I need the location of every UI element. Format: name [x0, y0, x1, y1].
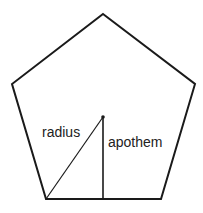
- apothem-label: apothem: [108, 134, 162, 150]
- radius-label: radius: [42, 124, 80, 140]
- center-point: [101, 115, 105, 119]
- diagram-svg: radius apothem: [0, 0, 203, 213]
- pentagon-diagram: radius apothem: [0, 0, 203, 213]
